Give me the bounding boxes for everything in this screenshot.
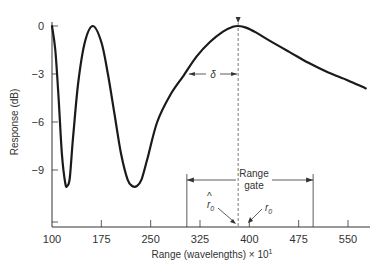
x-tick-label: 400 (240, 233, 258, 245)
arrowhead-icon (187, 178, 194, 183)
r0-label: r0 (265, 202, 272, 215)
arrowhead-icon (248, 217, 253, 223)
y-ticks: 0−3−6−9 (31, 20, 58, 222)
range-gate-label-1: Range (239, 168, 269, 179)
x-tick-label: 325 (191, 233, 209, 245)
x-tick-label: 550 (339, 233, 357, 245)
y-tick-label: −9 (31, 164, 44, 176)
arrowhead-icon (230, 219, 236, 224)
range-gate-label-2: gate (244, 180, 264, 191)
delta-label: δ (210, 69, 216, 80)
hat-mark: ^ (207, 191, 212, 202)
arrowhead-icon (306, 178, 313, 183)
x-tick-label: 475 (289, 233, 307, 245)
y-tick-label: −3 (31, 68, 44, 80)
x-axis-title: Range (wavelengths) × 101 (152, 248, 273, 260)
x-ticks: 100175250325400475550 (43, 220, 357, 245)
arrowhead-icon (189, 72, 195, 76)
r0-annotation: r0 (248, 202, 272, 223)
x-tick-label: 250 (141, 233, 159, 245)
y-axis-title: Response (dB) (9, 89, 20, 156)
peak-arrow-icon (236, 17, 241, 23)
delta-annotation: δ (189, 69, 237, 80)
response-curve (52, 26, 366, 187)
arrowhead-icon (231, 72, 237, 76)
y-tick-label: 0 (38, 20, 44, 32)
x-tick-label: 175 (92, 233, 110, 245)
x-tick-label: 100 (43, 233, 61, 245)
response-chart: 0−3−6−9 100175250325400475550 δ Range ga… (0, 0, 380, 274)
r0-hat-annotation: r0 ^ (207, 191, 236, 224)
y-tick-label: −6 (31, 116, 44, 128)
